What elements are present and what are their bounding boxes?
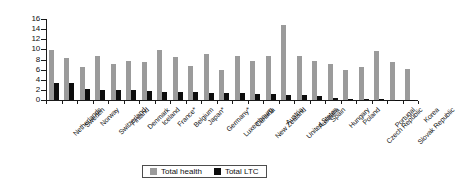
bar-group (95, 19, 105, 100)
legend-entry-total-ltc: Total LTC (214, 168, 259, 176)
bar-total-ltc (317, 96, 322, 100)
bar-total-ltc (271, 94, 276, 100)
y-axis-tick-label: 2 (2, 86, 40, 94)
bar-group (49, 19, 59, 100)
bar-group (250, 19, 260, 100)
bar-total-ltc (209, 93, 214, 100)
y-axis-tick-label: 0 (2, 96, 40, 104)
x-axis-label: United States (305, 106, 339, 140)
bar-total-ltc (116, 90, 121, 100)
x-axis-tick (325, 101, 326, 104)
y-axis-tick (41, 60, 46, 61)
bar-total-ltc (364, 99, 369, 100)
x-axis-tick (279, 101, 280, 104)
x-axis-tick (170, 101, 171, 104)
bar-total-ltc (302, 95, 307, 100)
bar-total-ltc (162, 92, 167, 100)
y-axis-tick-label: 16 (2, 15, 40, 23)
bar-total-ltc (379, 99, 384, 100)
x-axis-label: France* (176, 106, 198, 128)
bar-group (266, 19, 276, 100)
bar-total-health (359, 67, 364, 100)
x-axis-label: Poland (361, 106, 381, 126)
x-axis-tick (232, 101, 233, 104)
bar-total-ltc (286, 95, 291, 100)
bar-group (235, 19, 245, 100)
legend-label-total-health: Total health (161, 168, 202, 176)
y-axis-tick-label: 12 (2, 35, 40, 43)
y-axis-tick (41, 29, 46, 30)
x-axis-tick (108, 101, 109, 104)
x-axis-tick (356, 101, 357, 104)
y-axis-tick-label: 6 (2, 66, 40, 74)
x-axis-label: Finland (129, 106, 150, 127)
x-axis-tick (403, 101, 404, 104)
x-axis-tick (294, 101, 295, 104)
x-axis-label: Luxembourg (242, 106, 274, 138)
x-axis-label: Australia (316, 106, 340, 130)
bar-total-ltc (85, 89, 90, 100)
bar-total-ltc (240, 93, 245, 100)
bar-total-ltc (224, 93, 229, 100)
bar-total-health (374, 51, 379, 100)
bar-total-health (343, 70, 348, 100)
y-axis-tick-label: 8 (2, 56, 40, 64)
bar-total-ltc (131, 90, 136, 100)
bar-group (328, 19, 338, 100)
bar-group (297, 19, 307, 100)
bar-total-health (312, 61, 317, 100)
bar-group (359, 19, 369, 100)
x-axis-label: Denmark (146, 106, 171, 131)
x-axis-label: Belgium (192, 106, 214, 128)
y-axis-tick (41, 49, 46, 50)
x-axis-tick (77, 101, 78, 104)
bar-group (390, 19, 400, 100)
bar-total-ltc (410, 100, 415, 101)
x-axis-label: Switzerland (117, 106, 147, 136)
bar-total-health (390, 62, 395, 100)
bar-total-health (405, 69, 410, 100)
bar-group (312, 19, 322, 100)
x-axis-label: Hungary (347, 106, 370, 129)
bar-group (188, 19, 198, 100)
x-axis-label: Austria (284, 106, 304, 126)
y-axis-tick-label: 14 (2, 25, 40, 33)
x-axis-tick (248, 101, 249, 104)
x-axis-tick (124, 101, 125, 104)
y-axis-tick (41, 70, 46, 71)
x-axis-tick (341, 101, 342, 104)
x-axis-tick (93, 101, 94, 104)
y-axis-tick (41, 39, 46, 40)
x-axis-label: Czech Republic (385, 106, 424, 145)
bar-group (219, 19, 229, 100)
y-axis-tick-labels: 0246810121416 (0, 0, 40, 110)
x-axis-label: Slovak Republic (416, 106, 455, 145)
legend-label-total-ltc: Total LTC (225, 168, 259, 176)
x-axis-tick (46, 101, 47, 104)
x-axis-tick (155, 101, 156, 104)
y-axis-tick-label: 4 (2, 76, 40, 84)
bar-total-health (281, 25, 286, 100)
bar-total-ltc (395, 100, 400, 101)
y-axis-tick (41, 19, 46, 20)
x-axis-tick (62, 101, 63, 104)
x-axis-label: Germany* (225, 106, 252, 133)
bar-total-health (328, 64, 333, 100)
bar-group (126, 19, 136, 100)
bar-total-ltc (255, 94, 260, 100)
x-axis-tick (372, 101, 373, 104)
bar-group (343, 19, 353, 100)
bar-total-ltc (333, 98, 338, 100)
legend-swatch-health-icon (150, 168, 157, 175)
bar-group (173, 19, 183, 100)
x-axis-tick (217, 101, 218, 104)
x-axis-label: Netherlands (71, 106, 102, 137)
x-axis-tick (201, 101, 202, 104)
x-axis-tick (186, 101, 187, 104)
x-axis-label: Japan* (206, 106, 226, 126)
legend-entry-total-health: Total health (150, 168, 202, 176)
bar-group (111, 19, 121, 100)
chart-legend: Total health Total LTC (142, 165, 267, 178)
bar-group (64, 19, 74, 100)
